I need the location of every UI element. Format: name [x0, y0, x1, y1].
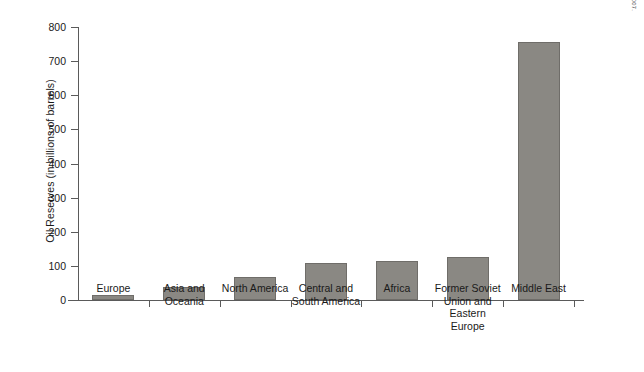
- y-axis-tick: [71, 300, 78, 301]
- bar-chart: Oil Reserves (in billions of barrels) So…: [0, 0, 644, 372]
- y-axis-tick: [71, 27, 78, 28]
- y-axis-tick-label: 800: [26, 21, 66, 33]
- y-axis-tick-label: 500: [26, 123, 66, 135]
- x-axis-tick: [574, 300, 575, 307]
- bar: [518, 42, 560, 300]
- y-axis-tick: [71, 95, 78, 96]
- source-note: Source: U.S. Energy Information Administ…: [630, 0, 638, 20]
- y-axis-tick: [71, 232, 78, 233]
- y-axis-tick-label: 400: [26, 158, 66, 170]
- y-axis-tick: [71, 129, 78, 130]
- y-axis-tick: [71, 164, 78, 165]
- bar: [92, 295, 134, 300]
- y-axis-tick-label: 300: [26, 192, 66, 204]
- y-axis-tick-label: 100: [26, 260, 66, 272]
- y-axis-tick: [71, 198, 78, 199]
- y-axis-line: [78, 27, 79, 300]
- y-axis-tick: [71, 61, 78, 62]
- y-axis-tick-label: 200: [26, 226, 66, 238]
- plot-area: [78, 27, 574, 300]
- y-axis-tick-label: 700: [26, 55, 66, 67]
- y-axis-tick: [71, 266, 78, 267]
- x-axis-category-label: Middle East: [497, 282, 580, 295]
- y-axis-tick-label: 600: [26, 89, 66, 101]
- y-axis-tick-label: 0: [26, 294, 66, 306]
